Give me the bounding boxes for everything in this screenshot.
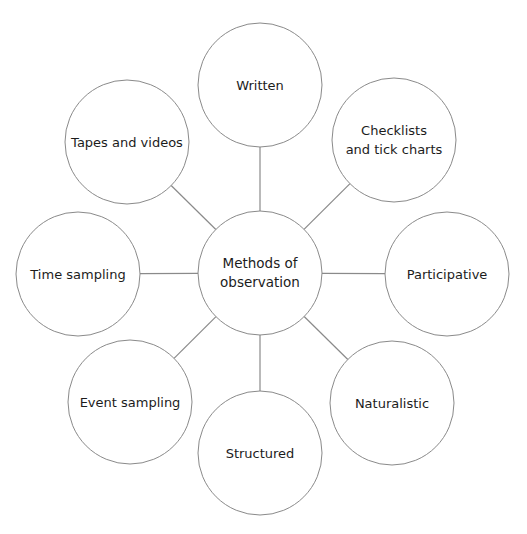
connector-event-sampling xyxy=(174,317,216,359)
node-label-event-sampling: Event sampling xyxy=(70,393,190,412)
node-label-tapes-videos: Tapes and videos xyxy=(67,133,187,152)
node-label-participative: Participative xyxy=(387,265,507,284)
node-label-naturalistic: Naturalistic xyxy=(332,394,452,413)
node-label-checklists: Checklists and tick charts xyxy=(334,121,454,159)
node-label-written: Written xyxy=(200,76,320,95)
connector-checklists xyxy=(304,184,350,230)
node-label-time-sampling: Time sampling xyxy=(18,265,138,284)
node-label-structured: Structured xyxy=(200,444,320,463)
connector-naturalistic xyxy=(304,317,348,360)
center-node-label: Methods of observation xyxy=(200,254,320,292)
connector-tapes-videos xyxy=(171,186,216,230)
